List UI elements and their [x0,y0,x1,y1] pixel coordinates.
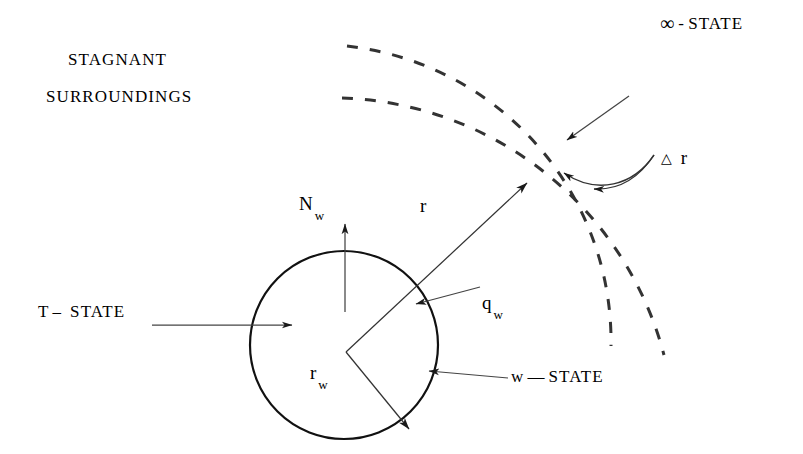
label-w-state: w—STATE [511,368,604,385]
technical-diagram: STAGNANT SURROUNDINGS ∞-STATE T–STATE Nw… [0,0,803,454]
outer-dashed-arc [342,98,664,355]
radius-rw-arrow [346,352,409,429]
infinity-symbol: ∞ [660,12,675,34]
label-stagnant: STAGNANT [68,51,167,68]
delta-r-curve-left [564,155,654,185]
radius-rw-symbol: r [310,362,316,383]
infinity-dash: - [675,14,688,33]
particle-circle [250,251,438,439]
label-molar-flux-Nw: Nw [299,194,322,217]
flux-N-symbol: N [299,193,313,214]
w-state-text: STATE [549,367,604,386]
label-stagnant-text: STAGNANT [68,50,167,69]
radius-rw-subscript: w [318,377,327,392]
label-surroundings: SURROUNDINGS [46,88,192,105]
label-heat-flux-qw: qw [482,293,501,316]
delta-r-symbol: r [672,147,687,168]
infinity-state-arrow [567,96,629,140]
label-delta-r: △r [661,148,687,167]
flux-N-subscript: w [315,208,324,223]
heat-flux-qw-arrow [416,287,480,304]
w-dash: — [524,367,548,386]
label-surroundings-text: SURROUNDINGS [46,87,192,106]
heat-q-subscript: w [494,307,503,322]
w-state-arrow [429,371,508,378]
t-dash: – [49,302,65,321]
delta-r-curve-right [594,155,654,189]
delta-triangle-symbol: △ [661,151,672,166]
label-t-state: T–STATE [38,303,125,320]
radius-r-symbol: r [420,195,426,216]
label-infinity-state: ∞-STATE [660,12,743,32]
infinity-state-text: STATE [688,14,743,33]
label-particle-radius-rw: rw [310,363,326,386]
w-symbol: w [511,367,524,386]
heat-q-symbol: q [482,292,492,313]
t-state-text: STATE [65,302,125,321]
label-radius-r: r [420,196,426,215]
t-symbol: T [38,302,49,321]
